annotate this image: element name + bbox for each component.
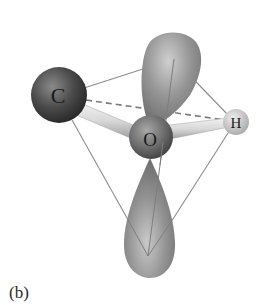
molecule-diagram: C O H [0, 0, 270, 305]
oxygen-atom: O [129, 115, 173, 159]
edge-carbon-to-bottom [72, 120, 127, 218]
lower-lobe [124, 158, 175, 278]
edge-hydrogen-to-bottom [173, 130, 230, 219]
hydrogen-label: H [231, 115, 242, 131]
figure-caption: (b) [9, 283, 29, 303]
carbon-label: C [51, 83, 66, 108]
oxygen-label: O [143, 129, 157, 150]
hydrogen-atom: H [223, 109, 249, 135]
carbon-atom: C [31, 67, 87, 123]
